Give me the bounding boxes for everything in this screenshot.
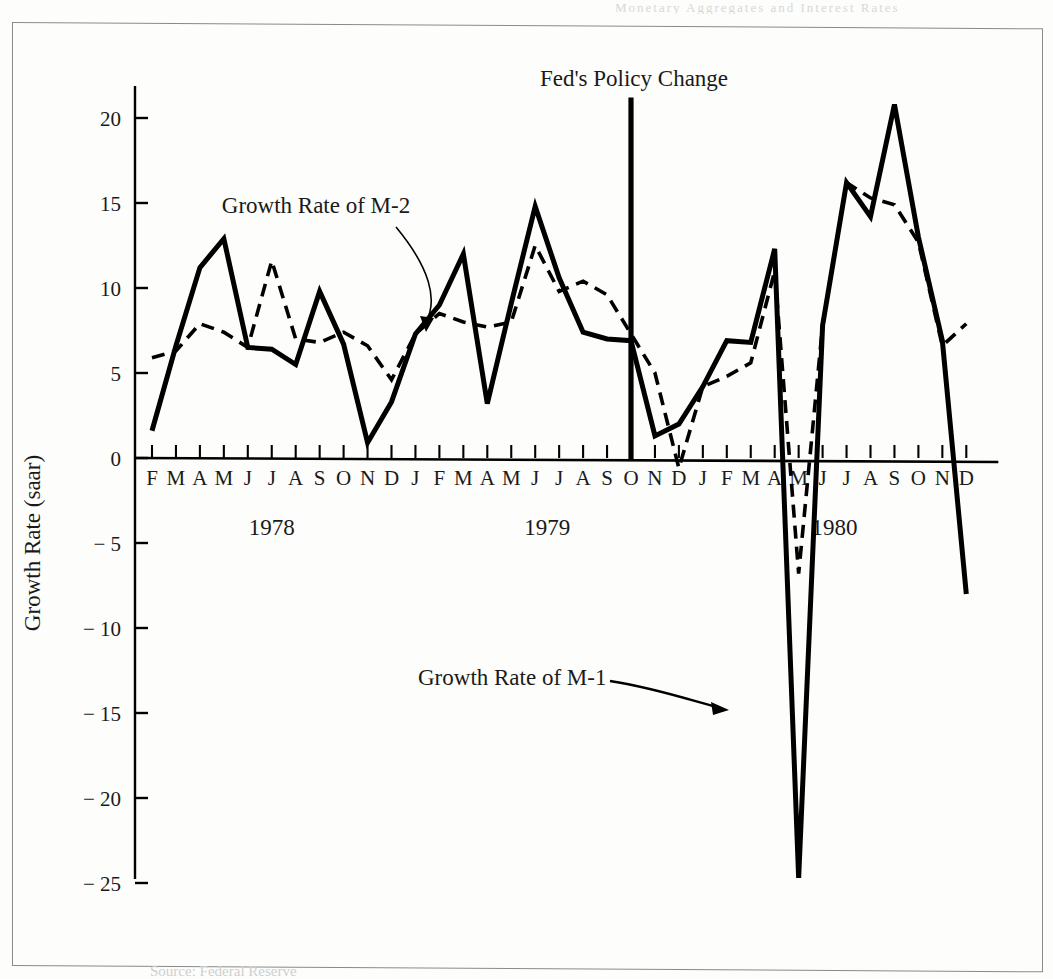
m1-leader-line: [610, 681, 716, 707]
x-tick-label: M: [167, 466, 186, 490]
x-tick-label: J: [244, 466, 252, 490]
y-axis-title: Growth Rate (saar): [20, 455, 45, 631]
growth-rate-chart: 20151050− 5− 10− 15− 20− 25FMAMJJASONDJF…: [0, 0, 1053, 979]
y-tick-label: 20: [100, 107, 121, 131]
m2-leader-curve: [396, 227, 431, 322]
y-tick-label: − 15: [83, 702, 121, 726]
x-tick-label: J: [555, 466, 563, 490]
x-tick-label: D: [959, 466, 974, 490]
x-axis-line: [135, 458, 998, 462]
x-axis-year-label: 1980: [812, 515, 858, 540]
x-tick-label: A: [192, 466, 208, 490]
x-tick-label: A: [288, 466, 304, 490]
x-tick-label: N: [647, 466, 662, 490]
m1-annotation: Growth Rate of M-1: [418, 665, 729, 715]
x-tick-label: S: [601, 466, 613, 490]
x-tick-label: J: [411, 466, 419, 490]
x-tick-label: M: [741, 466, 760, 490]
x-tick-label: J: [819, 466, 827, 490]
source-note: Source: Federal Reserve: [150, 963, 297, 979]
series-group: [152, 104, 966, 878]
x-tick-label: M: [215, 466, 234, 490]
x-tick-label: A: [480, 466, 496, 490]
m2-annotation-label: Growth Rate of M-2: [222, 193, 410, 218]
x-tick-label: A: [576, 466, 592, 490]
x-tick-label: J: [268, 466, 276, 490]
x-tick-label: O: [336, 466, 351, 490]
y-tick-label: − 5: [93, 532, 121, 556]
x-tick-label: J: [699, 466, 707, 490]
m1-annotation-label: Growth Rate of M-1: [418, 665, 606, 690]
x-tick-label: F: [721, 466, 733, 490]
y-tick-label: − 10: [83, 617, 121, 641]
x-tick-label: F: [146, 466, 158, 490]
x-tick-label: N: [935, 466, 950, 490]
x-tick-label: J: [842, 466, 850, 490]
x-tick-label: J: [531, 466, 539, 490]
y-tick-label: 15: [100, 192, 121, 216]
x-tick-label: M: [454, 466, 473, 490]
m1-arrowhead-icon: [711, 702, 729, 715]
x-tick-label: M: [502, 466, 521, 490]
y-tick-label: 5: [111, 362, 122, 386]
x-tick-label: D: [384, 466, 399, 490]
x-axis-year-label: 1978: [249, 515, 295, 540]
x-tick-label: N: [360, 466, 375, 490]
x-tick-label: A: [863, 466, 879, 490]
x-tick-label: S: [889, 466, 901, 490]
x-tick-label: D: [671, 466, 686, 490]
x-tick-label: S: [314, 466, 326, 490]
y-tick-label: − 20: [83, 787, 121, 811]
y-tick-label: 10: [100, 277, 121, 301]
fed-policy-change-label: Fed's Policy Change: [540, 66, 728, 91]
x-tick-label: O: [911, 466, 926, 490]
series-line-m1: [152, 104, 966, 878]
axes: 20151050− 5− 10− 15− 20− 25FMAMJJASONDJF…: [20, 86, 998, 896]
y-tick-label: − 25: [83, 872, 121, 896]
x-tick-label: O: [623, 466, 638, 490]
y-tick-label: 0: [111, 447, 122, 471]
x-axis-year-label: 1979: [524, 515, 570, 540]
x-tick-label: F: [434, 466, 446, 490]
